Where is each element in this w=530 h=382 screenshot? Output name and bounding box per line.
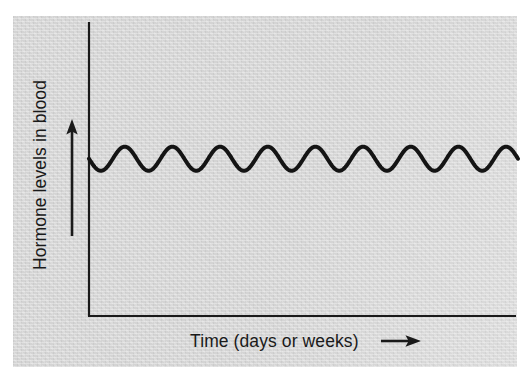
x-axis-right-arrow-icon [381, 335, 421, 346]
y-axis-up-arrow-icon [66, 119, 77, 236]
figure-container: Hormone levels in blood Time (days or we… [0, 0, 530, 382]
x-axis-label: Time (days or weeks) [190, 331, 359, 352]
y-axis-label: Hormone levels in blood [30, 80, 51, 270]
chart-plot-area [0, 0, 530, 382]
hormone-level-wave [89, 147, 518, 171]
